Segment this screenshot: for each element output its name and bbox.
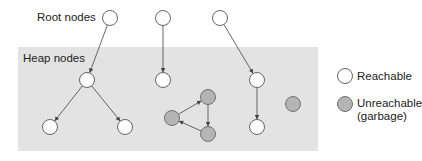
edge-arrow [179, 121, 201, 131]
legend-unreachable-label: Unreachable [357, 97, 422, 110]
edge-arrow [55, 86, 82, 121]
reachable-heap-node [80, 73, 95, 88]
reachable-heap-node [250, 73, 265, 88]
root-node [213, 11, 228, 26]
garbage-heap-node [165, 111, 180, 126]
nodes [43, 11, 301, 142]
reachable-heap-node [43, 120, 58, 135]
reachable-heap-node [118, 120, 133, 135]
edge-arrow [90, 25, 108, 72]
legend-garbage-label: (garbage) [357, 110, 407, 123]
edge-arrow [178, 101, 201, 114]
legend [338, 69, 353, 112]
root-node [103, 11, 118, 26]
garbage-heap-node [201, 127, 216, 142]
legend-unreachable-swatch-icon [338, 97, 353, 112]
edge-arrow [92, 86, 120, 121]
edge-arrow [224, 24, 253, 73]
legend-reachable-label: Reachable [357, 70, 412, 83]
garbage-heap-node [286, 97, 301, 112]
legend-reachable-swatch-icon [338, 69, 353, 84]
reachable-heap-node [250, 120, 265, 135]
garbage-heap-node [201, 90, 216, 105]
root-node [156, 11, 171, 26]
reachable-heap-node [156, 73, 171, 88]
